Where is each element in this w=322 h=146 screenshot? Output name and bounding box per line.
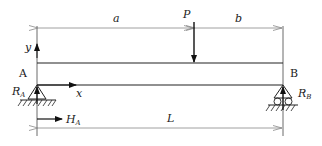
label-p: P bbox=[182, 8, 191, 21]
label-ra: RA bbox=[11, 85, 25, 99]
label-b: b bbox=[235, 12, 242, 25]
label-a: a bbox=[113, 12, 120, 25]
label-rb: RB bbox=[297, 87, 311, 101]
label-b-point: B bbox=[290, 67, 298, 80]
label-x: x bbox=[76, 87, 83, 100]
label-ha: HA bbox=[65, 113, 81, 127]
label-y: y bbox=[24, 41, 32, 54]
roller-support-b bbox=[266, 85, 298, 111]
beam-diagram: a b P y x A B L RA RB HA bbox=[0, 0, 322, 146]
label-a-point: A bbox=[18, 67, 28, 80]
label-l: L bbox=[166, 112, 174, 125]
